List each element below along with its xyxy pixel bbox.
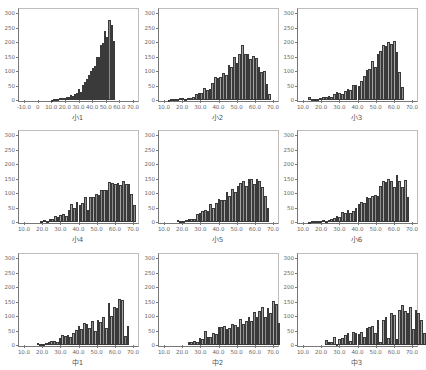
x-tick-label: 30.0 — [190, 349, 210, 355]
histogram-panel: 05010015020025030010.020.030.040.050.060… — [0, 245, 139, 367]
panel-title: 中3 — [327, 357, 387, 367]
histogram-bar — [407, 197, 410, 222]
x-tick-label: 10.0 — [154, 226, 174, 232]
x-tick-mark — [394, 100, 395, 103]
y-tick-label: 150 — [139, 299, 155, 305]
histogram-panel: 05010015020025030010.020.030.040.050.060… — [140, 0, 279, 122]
y-tick-mark — [16, 135, 19, 136]
y-tick-mark — [295, 28, 298, 29]
y-tick-mark — [16, 100, 19, 101]
y-tick-label: 50 — [278, 205, 294, 211]
y-tick-mark — [295, 331, 298, 332]
y-tick-mark — [295, 179, 298, 180]
plot-area — [18, 8, 139, 102]
y-tick-label: 0 — [0, 219, 15, 225]
x-tick-label: 10.0 — [293, 226, 313, 232]
y-tick-label: 300 — [278, 10, 294, 16]
y-tick-label: 150 — [0, 176, 15, 182]
y-tick-label: 100 — [278, 190, 294, 196]
panel-title: 小4 — [48, 234, 108, 244]
y-tick-mark — [16, 28, 19, 29]
y-tick-mark — [295, 208, 298, 209]
x-tick-label: 60.0 — [245, 226, 265, 232]
y-tick-label: 250 — [278, 270, 294, 276]
x-tick-label: 40.0 — [209, 226, 229, 232]
y-tick-label: 50 — [0, 205, 15, 211]
y-tick-label: 50 — [139, 83, 155, 89]
y-tick-label: 0 — [0, 97, 15, 103]
histogram-panel: 05010015020025030010.020.030.040.050.060… — [140, 122, 279, 244]
x-tick-mark — [394, 222, 395, 225]
x-tick-label: 60.0 — [384, 104, 404, 110]
x-tick-mark — [219, 222, 220, 225]
x-tick-label: 40.0 — [209, 349, 229, 355]
x-tick-mark — [237, 345, 238, 348]
x-tick-label: 50.0 — [227, 104, 247, 110]
y-tick-label: 300 — [139, 10, 155, 16]
x-tick-mark — [358, 345, 359, 348]
x-tick-label: 10.0 — [154, 349, 174, 355]
x-tick-mark — [65, 100, 66, 103]
histogram-panel: 05010015020025030010.020.030.040.050.060… — [279, 245, 418, 367]
x-tick-label: 50.0 — [366, 104, 386, 110]
y-tick-label: 200 — [278, 161, 294, 167]
x-tick-label: 20.0 — [32, 226, 52, 232]
y-tick-mark — [295, 258, 298, 259]
x-tick-label: 60.0 — [245, 349, 265, 355]
y-tick-label: 150 — [278, 176, 294, 182]
y-tick-label: 200 — [0, 284, 15, 290]
x-tick-label: 40.0 — [209, 104, 229, 110]
y-tick-label: 0 — [278, 342, 294, 348]
x-tick-label: 60.0 — [384, 349, 404, 355]
x-tick-mark — [60, 222, 61, 225]
y-tick-mark — [156, 222, 159, 223]
x-tick-label: 30.0 — [190, 104, 210, 110]
x-tick-label: 40.0 — [348, 226, 368, 232]
x-tick-mark — [219, 100, 220, 103]
y-tick-mark — [156, 258, 159, 259]
y-tick-mark — [295, 345, 298, 346]
y-tick-mark — [156, 287, 159, 288]
y-tick-label: 50 — [0, 83, 15, 89]
y-tick-mark — [16, 150, 19, 151]
histogram-bar — [401, 87, 404, 100]
x-tick-mark — [97, 222, 98, 225]
x-tick-label: 30.0 — [329, 226, 349, 232]
y-tick-mark — [16, 208, 19, 209]
x-tick-label: 70.0 — [402, 104, 422, 110]
x-tick-label: 40.0 — [348, 349, 368, 355]
x-tick-mark — [106, 100, 107, 103]
y-tick-mark — [16, 193, 19, 194]
x-tick-label: 20.0 — [311, 104, 331, 110]
y-tick-label: 100 — [278, 313, 294, 319]
x-tick-mark — [237, 100, 238, 103]
x-tick-label: 50.0 — [87, 226, 107, 232]
y-tick-mark — [156, 208, 159, 209]
y-tick-label: 250 — [278, 25, 294, 31]
x-tick-mark — [79, 100, 80, 103]
x-tick-label: 50.0 — [366, 349, 386, 355]
y-tick-mark — [295, 42, 298, 43]
histogram-panel: 05010015020025030010.020.030.040.050.060… — [279, 122, 418, 244]
x-tick-label: 60.0 — [245, 104, 265, 110]
x-tick-mark — [358, 100, 359, 103]
x-tick-label: 50.0 — [227, 226, 247, 232]
y-tick-mark — [295, 193, 298, 194]
histogram-panel: 05010015020025030010.020.030.040.050.060… — [0, 122, 139, 244]
x-tick-mark — [79, 222, 80, 225]
y-tick-mark — [16, 345, 19, 346]
x-tick-mark — [412, 222, 413, 225]
y-tick-mark — [16, 71, 19, 72]
x-tick-mark — [115, 345, 116, 348]
x-tick-label: 10.0 — [14, 226, 34, 232]
y-tick-label: 150 — [278, 299, 294, 305]
y-tick-mark — [295, 222, 298, 223]
x-tick-mark — [97, 345, 98, 348]
y-tick-label: 0 — [278, 97, 294, 103]
x-tick-mark — [60, 345, 61, 348]
y-tick-label: 0 — [139, 342, 155, 348]
y-tick-label: 250 — [0, 270, 15, 276]
y-tick-mark — [156, 164, 159, 165]
x-tick-mark — [24, 222, 25, 225]
x-tick-label: 30.0 — [329, 349, 349, 355]
